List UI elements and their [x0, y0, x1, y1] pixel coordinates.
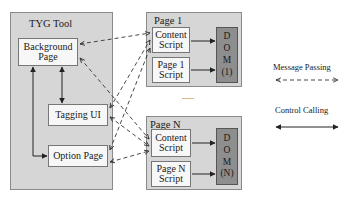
dom-arrows: [191, 41, 215, 174]
message-passing-arrows: [80, 33, 150, 162]
control-calling-arrows: [33, 67, 62, 156]
connector-layer: [0, 0, 352, 200]
